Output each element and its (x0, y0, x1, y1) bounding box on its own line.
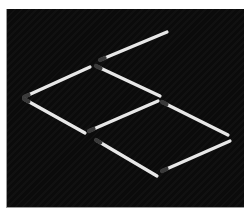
matchstick-m8[interactable] (162, 141, 230, 171)
match-stick (24, 67, 90, 97)
match-head (96, 140, 100, 143)
match-stick (100, 32, 167, 60)
matchstick-m4[interactable] (24, 99, 85, 133)
match-stick (96, 140, 157, 176)
matchstick-figure (0, 0, 248, 216)
match-head (24, 95, 29, 97)
matchstick-m3[interactable] (96, 66, 160, 96)
matchstick-m5[interactable] (89, 101, 158, 131)
match-head (162, 169, 167, 171)
matchstick-m7[interactable] (96, 140, 157, 176)
match-stick (162, 141, 230, 171)
matchstick-m2[interactable] (24, 67, 90, 97)
match-head (89, 129, 94, 131)
match-stick (24, 99, 85, 133)
match-head (24, 99, 28, 101)
matchstick-m1[interactable] (100, 32, 167, 60)
match-head (162, 102, 166, 104)
matchstick-m6[interactable] (162, 102, 228, 135)
match-stick (89, 101, 158, 131)
match-head (100, 58, 105, 60)
match-stick (162, 102, 228, 135)
match-head (96, 66, 101, 68)
match-stick (96, 66, 160, 96)
